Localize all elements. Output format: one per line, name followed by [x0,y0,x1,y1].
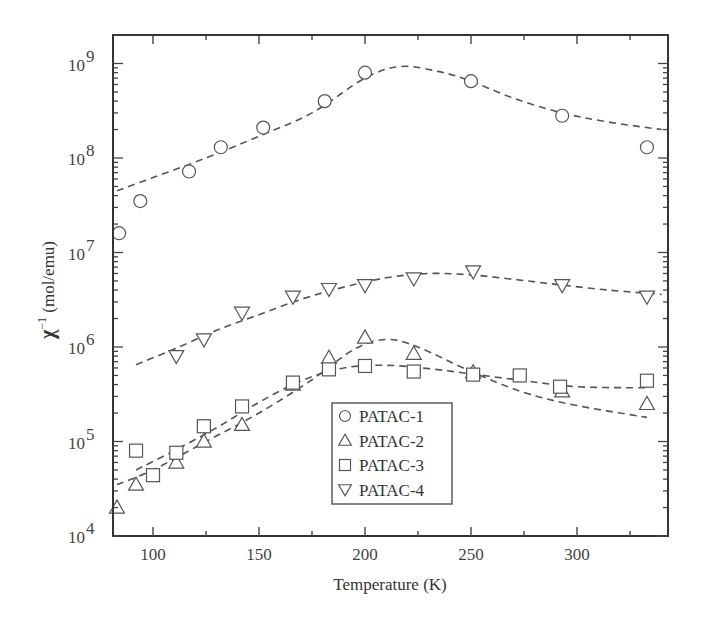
triangle-up-marker [639,396,654,409]
fit-line-patac-4 [136,273,662,364]
y-tick-label: 10 [68,150,85,169]
square-marker [170,446,183,459]
circle-marker [359,66,372,79]
square-marker [322,363,335,376]
circle-marker [257,121,270,134]
triangle-down-marker [639,291,654,304]
y-tick-exponent: 4 [86,519,95,538]
legend: PATAC-1PATAC-2PATAC-3PATAC-4 [332,403,452,504]
triangle-up-marker [321,350,336,363]
square-marker [236,400,249,413]
y-tick-exponent: 9 [86,47,95,66]
square-marker [197,420,210,433]
triangle-down-marker [169,351,184,364]
square-marker [640,374,653,387]
circle-marker [134,195,147,208]
square-marker [286,376,299,389]
circle-marker [465,75,478,88]
circle-marker [318,95,331,108]
square-marker [513,369,526,382]
triangle-down-marker [406,273,421,286]
y-axis-title: χ−1 (mol/emu) [35,241,59,340]
square-marker [467,368,480,381]
y-tick-label: 10 [68,245,85,264]
circle-legend-icon [340,411,351,422]
square-marker [554,380,567,393]
legend-label: PATAC-3 [359,456,424,475]
y-tick-label: 10 [68,339,85,358]
x-tick-label: 150 [246,545,272,564]
x-tick-label: 300 [564,545,590,564]
legend-label: PATAC-1 [359,407,424,426]
x-tick-label: 200 [352,545,378,564]
square-marker [147,469,160,482]
y-tick-exponent: 5 [86,425,95,444]
triangle-up-marker [109,500,124,513]
triangle-down-marker [466,266,481,279]
y-tick-exponent: 8 [86,141,95,160]
square-marker [407,365,420,378]
y-tick-label: 10 [68,528,85,547]
triangle-up-marker [358,330,373,343]
y-tick-label: 10 [68,56,85,75]
triangle-down-marker [285,291,300,304]
square-marker [130,444,143,457]
y-tick-label: 10 [68,434,85,453]
legend-label: PATAC-2 [359,432,424,451]
legend-label: PATAC-4 [359,481,425,500]
x-tick-label: 250 [458,545,484,564]
fit-line-patac-1 [117,66,662,190]
triangle-down-marker [358,280,373,293]
circle-marker [183,165,196,178]
triangle-down-marker [196,334,211,347]
triangle-down-marker [321,283,336,296]
x-tick-label: 100 [140,545,166,564]
circle-marker [113,227,126,240]
square-legend-icon [340,460,351,471]
circle-marker [640,141,653,154]
y-tick-exponent: 6 [86,330,95,349]
chart: 100150200250300 104105106107108109 Tempe… [0,0,703,626]
circle-marker [214,141,227,154]
x-axis-title: Temperature (K) [333,575,447,594]
y-tick-exponent: 7 [86,236,95,255]
square-marker [359,359,372,372]
circle-marker [556,109,569,122]
